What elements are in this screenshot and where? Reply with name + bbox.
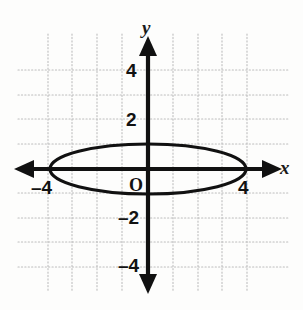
y-axis-arrow-up [139,36,157,56]
x-axis-label: x [280,158,290,177]
y-tick-label-neg4: –4 [118,256,139,275]
y-axis [139,36,157,294]
coordinate-plane-svg [0,0,303,310]
x-tick-label-neg4: –4 [31,178,52,197]
origin-label: O [129,176,143,194]
grid-lines [18,34,288,292]
x-axis-arrow-right [262,160,282,178]
y-axis-label: y [142,18,150,37]
graph-figure: y x O 4 2 –2 –4 –4 4 [0,0,303,310]
x-tick-label-4: 4 [238,178,249,197]
y-tick-label-2: 2 [126,110,137,129]
y-axis-arrow-down [139,274,157,294]
y-tick-label-neg2: –2 [118,208,139,227]
y-tick-label-4: 4 [126,61,137,80]
x-axis-arrow-left [14,160,34,178]
